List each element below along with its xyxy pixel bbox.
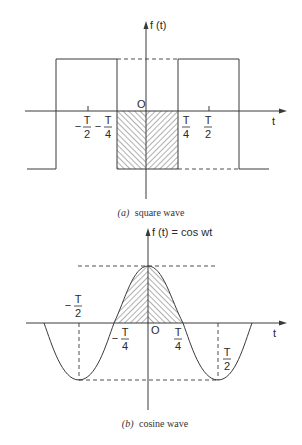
- svg-text:4: 4: [175, 340, 181, 352]
- svg-text:T: T: [84, 114, 91, 126]
- svg-text:4: 4: [183, 128, 189, 140]
- svg-text:T: T: [175, 326, 182, 338]
- caption-a: (a) square wave: [118, 207, 185, 219]
- tick-label-neg-half-a: − T 2: [75, 114, 91, 140]
- square-waveform-right: [178, 59, 269, 169]
- tick-label-pos-quarter-a: T 4: [182, 114, 190, 140]
- f-axis-arrow-icon-b: [146, 228, 151, 236]
- f-axis-arrow-icon: [144, 21, 149, 29]
- svg-text:−: −: [95, 120, 101, 132]
- tick-label-neg-half-b: − T 2: [65, 293, 82, 319]
- x-axis-label-b: t: [273, 327, 276, 339]
- svg-text:T: T: [183, 114, 190, 126]
- t-axis-arrow-icon: [279, 109, 287, 114]
- svg-text:T: T: [205, 114, 212, 126]
- svg-text:T: T: [105, 114, 112, 126]
- caption-b: (b) cosine wave: [122, 418, 189, 430]
- svg-text:−: −: [112, 332, 118, 344]
- y-axis-label-b: f (t) = cos wt: [152, 226, 212, 238]
- figure-canvas: f (t) t O − T 2 − T 4 T 4 T 2: [0, 0, 302, 445]
- tick-label-pos-quarter-b: T 4: [174, 326, 182, 352]
- svg-text:−: −: [65, 299, 71, 311]
- hatch-right-region: [146, 111, 178, 169]
- svg-text:4: 4: [122, 340, 128, 352]
- svg-text:T: T: [224, 346, 231, 358]
- y-axis-label-a: f (t): [150, 19, 167, 31]
- svg-text:2: 2: [205, 128, 211, 140]
- origin-label-a: O: [137, 98, 146, 110]
- x-axis-label-a: t: [272, 115, 275, 127]
- tick-label-pos-half-b: T 2: [223, 346, 231, 372]
- tick-label-neg-quarter-b: − T 4: [112, 326, 129, 352]
- t-axis-arrow-icon-b: [279, 321, 287, 326]
- hatch-left-region: [117, 111, 146, 169]
- panel-b-cosine-wave: f (t) = cos wt t O − T 2 − T 4 T 4 T 2: [26, 226, 287, 430]
- origin-label-b: O: [151, 324, 160, 336]
- svg-text:T: T: [75, 293, 82, 305]
- svg-text:2: 2: [75, 307, 81, 319]
- panel-a-square-wave: f (t) t O − T 2 − T 4 T 4 T 2: [25, 19, 287, 219]
- svg-text:2: 2: [224, 360, 230, 372]
- tick-label-neg-quarter-a: − T 4: [95, 114, 112, 140]
- tick-label-pos-half-a: T 2: [204, 114, 212, 140]
- svg-text:2: 2: [84, 128, 90, 140]
- svg-text:−: −: [75, 120, 81, 132]
- svg-text:4: 4: [105, 128, 111, 140]
- svg-text:T: T: [122, 326, 129, 338]
